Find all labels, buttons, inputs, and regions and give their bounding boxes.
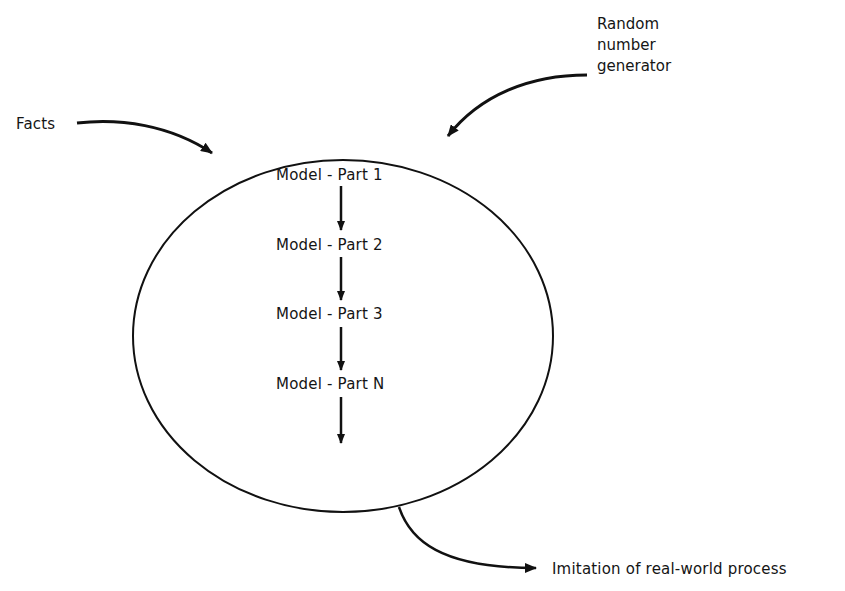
- model-circle: [133, 160, 553, 512]
- model-part-n: Model - Part N: [276, 374, 384, 394]
- output-arrow: [399, 507, 536, 568]
- diagram-canvas: [0, 0, 845, 591]
- facts-arrow: [77, 122, 212, 153]
- model-part-1: Model - Part 1: [276, 165, 383, 185]
- model-part-3: Model - Part 3: [276, 304, 383, 324]
- rng-arrow: [448, 75, 587, 136]
- rng-label-line-1: Random: [597, 14, 671, 35]
- rng-label-line-2: number: [597, 35, 671, 56]
- output-label: Imitation of real-world process: [552, 559, 787, 579]
- rng-label-line-3: generator: [597, 56, 671, 77]
- rng-label: Random number generator: [597, 14, 671, 77]
- facts-label: Facts: [16, 114, 55, 134]
- model-part-2: Model - Part 2: [276, 235, 383, 255]
